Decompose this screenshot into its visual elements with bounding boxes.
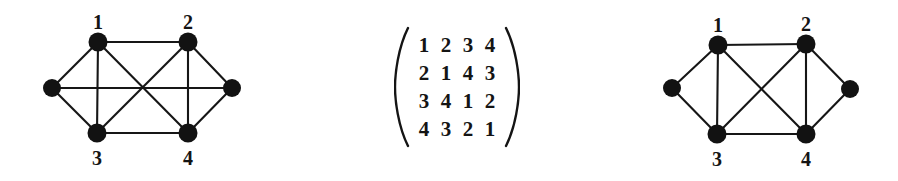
graph-edge [718, 44, 806, 45]
matrix-cell: 1 [457, 91, 479, 112]
vertex-label-3: 3 [86, 148, 108, 168]
graph-edge [672, 88, 717, 134]
matrix-cell: 4 [435, 91, 457, 112]
vertex-label-2: 2 [177, 12, 199, 32]
matrix-row: 3412 [413, 87, 501, 115]
right-graph-diagram [620, 0, 898, 181]
left-graph-panel: 1234 [0, 0, 300, 181]
graph-vertex-1 [709, 36, 728, 55]
graph-vertex-unlabeled [663, 79, 681, 97]
figure-canvas: 1234 1234214334124321 1234 [0, 0, 898, 181]
graph-vertex-2 [179, 33, 198, 52]
vertex-label-1: 1 [87, 12, 109, 32]
matrix: 1234214334124321 [394, 26, 520, 148]
graph-vertex-unlabeled [43, 79, 61, 97]
graph-edge [188, 42, 232, 88]
matrix-cell: 2 [413, 63, 435, 84]
graph-vertex-4 [797, 125, 816, 144]
matrix-panel: 1234214334124321 [380, 0, 520, 181]
matrix-cell: 4 [457, 63, 479, 84]
vertex-label-3: 3 [706, 149, 728, 169]
graph-edge [52, 88, 97, 133]
graph-vertex-3 [88, 124, 107, 143]
graph-edge [717, 45, 718, 134]
matrix-cell: 4 [413, 119, 435, 140]
matrix-cell: 2 [479, 91, 501, 112]
graph-vertex-unlabeled [223, 79, 241, 97]
matrix-cell: 1 [479, 119, 501, 140]
matrix-cell: 3 [435, 119, 457, 140]
vertex-label-4: 4 [795, 149, 817, 169]
matrix-cell: 4 [479, 35, 501, 56]
matrix-cell: 3 [479, 63, 501, 84]
matrix-row: 4321 [413, 115, 501, 143]
matrix-cell: 1 [435, 63, 457, 84]
left-parenthesis-bracket [394, 26, 410, 148]
graph-vertex-3 [708, 125, 727, 144]
matrix-rows: 1234214334124321 [410, 26, 504, 148]
right-parenthesis-bracket [504, 26, 520, 148]
matrix-row: 1234 [413, 31, 501, 59]
graph-vertex-2 [797, 35, 816, 54]
matrix-row: 2143 [413, 59, 501, 87]
vertex-label-1: 1 [707, 15, 729, 35]
graph-edge [52, 42, 98, 88]
left-graph-diagram [0, 0, 300, 181]
graph-vertex-1 [89, 33, 108, 52]
matrix-cell: 3 [457, 35, 479, 56]
graph-vertex-4 [179, 124, 198, 143]
matrix-cell: 1 [413, 35, 435, 56]
vertex-label-4: 4 [177, 148, 199, 168]
vertex-label-2: 2 [795, 14, 817, 34]
graph-vertex-unlabeled [841, 80, 859, 98]
right-graph-panel: 1234 [620, 0, 898, 181]
matrix-cell: 2 [435, 35, 457, 56]
matrix-cell: 3 [413, 91, 435, 112]
matrix-cell: 2 [457, 119, 479, 140]
